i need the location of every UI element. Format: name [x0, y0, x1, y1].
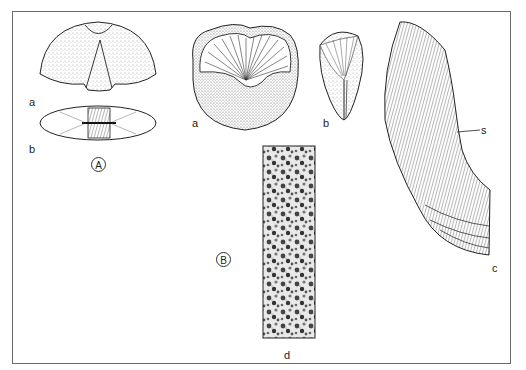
label-A-a: a [29, 97, 35, 108]
label-A-b: b [29, 144, 35, 155]
label-B-b: b [323, 118, 329, 129]
specimen-B-a [193, 24, 299, 130]
specimen-A-a [40, 22, 156, 91]
figure-illustrations [0, 0, 526, 370]
specimen-B-c [385, 22, 490, 255]
label-B-a: a [192, 118, 198, 129]
label-B-c: c [492, 263, 498, 274]
specimen-A-b [40, 106, 156, 140]
group-label-B: B [216, 252, 231, 267]
specimen-B-b [320, 32, 363, 120]
specimen-B-d [263, 146, 315, 338]
label-B-d: d [284, 350, 290, 361]
group-label-A: A [91, 157, 106, 172]
label-s-marker: s [481, 125, 487, 136]
